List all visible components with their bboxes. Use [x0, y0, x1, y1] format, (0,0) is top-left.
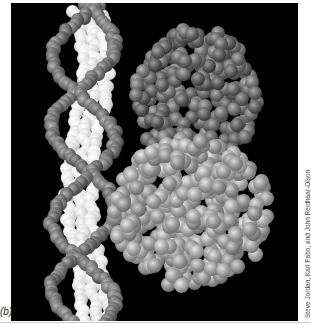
atom-sphere: [230, 118, 244, 132]
atom-sphere: [172, 254, 187, 269]
panel-label: (b): [0, 306, 12, 317]
atom-sphere: [187, 187, 202, 202]
atom-sphere: [189, 244, 204, 259]
atom-sphere: [230, 259, 245, 274]
atom-sphere: [150, 115, 164, 129]
atom-sphere: [126, 241, 141, 256]
atom-sphere: [120, 218, 135, 233]
image-credit: Steve Jordan, Karl Pabo, and John Reidha…: [304, 170, 311, 318]
atom-sphere: [148, 58, 162, 72]
atom-sphere: [211, 180, 226, 195]
atom-sphere: [174, 278, 189, 293]
atom-sphere: [146, 194, 161, 209]
atom-sphere: [98, 317, 111, 321]
atom-sphere: [151, 45, 165, 59]
atom-sphere: [165, 217, 180, 232]
atom-sphere: [211, 76, 225, 90]
divider: [0, 322, 311, 323]
atom-sphere: [69, 319, 82, 321]
atom-sphere: [147, 258, 162, 273]
molecule-image-panel: [11, 3, 298, 321]
atom-sphere: [248, 100, 262, 114]
atom-sphere: [212, 48, 226, 62]
atom-sphere: [155, 78, 169, 92]
atom-sphere: [190, 258, 205, 273]
atom-sphere: [185, 27, 199, 41]
atom-sphere: [247, 206, 262, 221]
atom-sphere: [224, 64, 238, 78]
atom-sphere: [238, 130, 252, 144]
atom-sphere: [231, 52, 245, 66]
atom-sphere: [214, 106, 228, 120]
atom-sphere: [129, 180, 144, 195]
atom-sphere: [150, 209, 165, 224]
atom-sphere: [191, 72, 205, 86]
space-filling-molecule-model: [11, 3, 298, 321]
atom-sphere: [129, 88, 143, 102]
atom-sphere: [253, 176, 268, 191]
atom-sphere: [175, 93, 189, 107]
atom-sphere: [178, 54, 192, 68]
atom-sphere: [206, 214, 221, 229]
atom-sphere: [216, 164, 231, 179]
